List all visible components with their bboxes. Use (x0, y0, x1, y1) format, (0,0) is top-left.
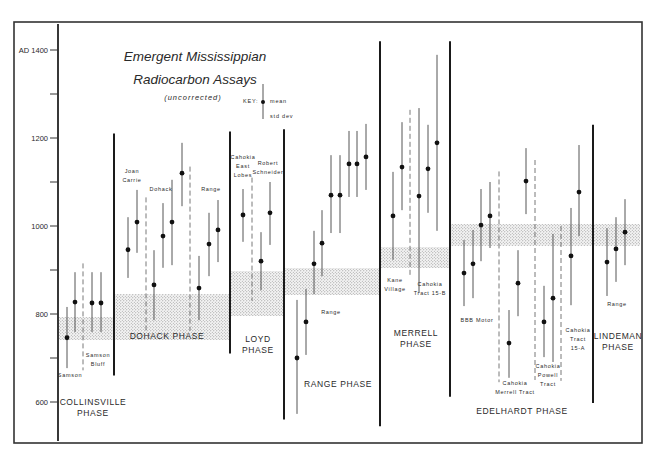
phase-label: MERRELL (394, 328, 438, 338)
mean-point (471, 261, 476, 266)
mean-point (435, 140, 440, 145)
site-label: Range (201, 186, 221, 192)
key-mean-dot (261, 100, 265, 104)
mean-point (216, 228, 221, 233)
mean-point (197, 286, 202, 291)
mean-point (364, 155, 369, 160)
site-label: Range (607, 301, 627, 307)
key-std-dev-label: std dev (270, 113, 293, 119)
site-label: Dohack (150, 186, 173, 192)
mean-point (338, 193, 343, 198)
site-label: Samson (58, 372, 82, 378)
chart-note: (uncorrected) (164, 93, 222, 102)
mean-point (161, 234, 166, 239)
site-label: Samson (86, 352, 110, 358)
y-axis: AD 140012001000800600 (19, 24, 58, 441)
site-label: East (236, 163, 250, 169)
mean-point (516, 281, 521, 286)
site-label: Tract (540, 381, 556, 387)
mean-point (569, 254, 574, 259)
site-label: Cahokia (535, 363, 560, 369)
y-tick-label: 600 (35, 398, 48, 407)
mean-point (462, 271, 467, 276)
site-label: Bluff (91, 361, 105, 367)
radiocarbon-chart: AD 140012001000800600 SamsonSamsonBluffJ… (0, 0, 654, 459)
mean-point (99, 301, 104, 306)
mean-point (65, 335, 70, 340)
site-label: Powell (538, 372, 558, 378)
mean-point (542, 320, 547, 325)
mean-point (479, 223, 484, 228)
site-label: Carrie (122, 177, 141, 183)
mean-point (417, 194, 422, 199)
mean-point (577, 190, 582, 195)
mean-point (551, 296, 556, 301)
legend-key: KEY: mean std dev (243, 84, 293, 119)
mean-point (152, 283, 157, 288)
mean-point (426, 166, 431, 171)
mean-point (488, 213, 493, 218)
phase-label: DOHACK PHASE (130, 331, 205, 341)
chart-subtitle: Radiocarbon Assays (133, 72, 257, 87)
phase-label: LINDEMAN (594, 331, 643, 341)
y-tick-label: 1200 (31, 134, 48, 143)
mean-point (391, 213, 396, 218)
phase-label: PHASE (400, 339, 432, 349)
mean-point (295, 356, 300, 361)
mean-point (614, 246, 619, 251)
y-tick-label: 1000 (31, 222, 48, 231)
site-label: Village (384, 286, 405, 292)
mean-point (180, 171, 185, 176)
phase-band (450, 224, 640, 246)
mean-point (312, 261, 317, 266)
mean-point (170, 220, 175, 225)
site-label: Cahokia (417, 281, 442, 287)
phase-label: LOYD (245, 334, 271, 344)
mean-point (400, 165, 405, 170)
phase-label: RANGE PHASE (304, 379, 372, 389)
site-label: Robert (258, 160, 279, 166)
mean-point (329, 193, 334, 198)
mean-point (623, 230, 628, 235)
mean-point (304, 320, 309, 325)
phase-label: PHASE (77, 408, 109, 418)
mean-point (347, 162, 352, 167)
y-tick-label: 800 (35, 310, 48, 319)
mean-point (355, 162, 360, 167)
chart-title-block: Emergent Mississippian Radiocarbon Assay… (124, 49, 267, 102)
mean-point (268, 210, 273, 215)
site-label: Range (321, 309, 341, 315)
y-tick-label: AD 1400 (19, 46, 48, 55)
site-label: Joan (125, 168, 140, 174)
phase-band (230, 271, 284, 316)
phase-label: PHASE (602, 342, 634, 352)
mean-point (135, 220, 140, 225)
mean-point (507, 341, 512, 346)
key-mean-label: mean (270, 98, 287, 104)
site-label: BBB Motor (461, 317, 494, 323)
site-label: Cahokia (230, 154, 255, 160)
mean-point (73, 300, 78, 305)
site-label: Cahokia (502, 380, 527, 386)
mean-point (241, 213, 246, 218)
mean-point (207, 242, 212, 247)
site-label: Kane (387, 277, 403, 283)
phase-label: EDELHARDT PHASE (476, 406, 568, 416)
chart-title: Emergent Mississippian (124, 49, 267, 64)
site-label: Schneider (252, 169, 283, 175)
site-label: Cahokia (565, 327, 590, 333)
phase-band (284, 268, 380, 295)
site-label: Merrell Tract (495, 389, 535, 395)
mean-point (605, 260, 610, 265)
site-label: Tract 15-B (414, 290, 446, 296)
site-label: Tract (570, 336, 586, 342)
mean-point (524, 179, 529, 184)
phase-band (380, 247, 450, 268)
mean-point (90, 301, 95, 306)
phase-label: COLLINSVILLE (60, 397, 127, 407)
mean-point (126, 247, 131, 252)
phase-label: PHASE (242, 345, 274, 355)
site-label: 15-A (571, 345, 585, 351)
key-label: KEY: (243, 98, 258, 104)
mean-point (320, 241, 325, 246)
